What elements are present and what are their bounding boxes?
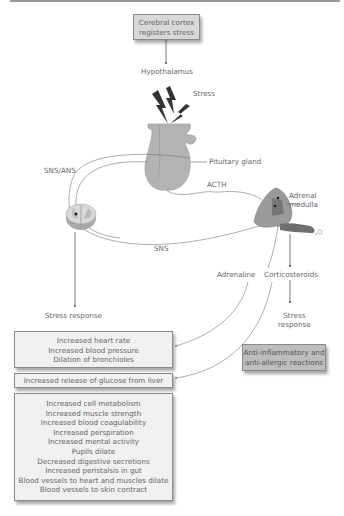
effect-line: Increased peristalsis in gut (15, 466, 172, 476)
stress-bolt-icon (152, 86, 190, 124)
effect-line: Increased mental activity (15, 437, 172, 447)
cerebral-cortex-box: Cerebral cortex registers stress (133, 14, 200, 40)
effect-line: Blood vessels to skin contract (15, 485, 172, 495)
spinal-cord-shape (66, 204, 96, 230)
label-stress-response-right: Stress response (278, 311, 311, 329)
cardio-line: Increased heart rate (15, 336, 172, 346)
label-sns-ans: SNS/ANS (44, 166, 76, 175)
anti-line: Anti-inflammatory and (243, 348, 325, 358)
glucose-release-box: Increased release of glucose from liver (14, 373, 173, 388)
effect-line: Increased muscle strength (15, 409, 172, 419)
label-pituitary-gland: Pituitary gland (209, 157, 261, 166)
cortex-line-2: registers stress (134, 28, 199, 38)
general-effects-box: Increased cell metabolism Increased musc… (14, 393, 173, 501)
effect-line: Increased cell metabolism (15, 399, 172, 409)
effect-line: Increased blood coagulability (15, 418, 172, 428)
cortex-line-1: Cerebral cortex (134, 18, 199, 28)
label-hypothalamus: Hypothalamus (141, 67, 193, 76)
glucose-line: Increased release of glucose from liver (15, 376, 172, 386)
anti-inflammatory-box: Anti-inflammatory and anti-allergic reac… (242, 344, 326, 371)
anti-line: anti-allergic reactions (243, 358, 325, 368)
label-sns: SNS (154, 244, 169, 253)
effect-line: Pupils dilate (15, 447, 172, 457)
adrenal-line-1: Adrenal (289, 191, 318, 200)
label-stress-response-left: Stress response (45, 311, 102, 320)
cardio-line: Dilation of bronchioles (15, 355, 172, 365)
adrenal-line-2: medulla (289, 200, 318, 209)
label-stress: Stress (193, 89, 215, 98)
effect-line: Blood vessels to heart and muscles dilat… (15, 476, 172, 486)
stress-response-line-2: response (278, 320, 311, 329)
stress-response-line-1: Stress (278, 311, 311, 320)
label-adrenal-medulla: Adrenal medulla (289, 191, 318, 209)
cardio-effects-box: Increased heart rate Increased blood pre… (14, 331, 173, 368)
effect-line: Decreased digestive secretions (15, 457, 172, 467)
pituitary-gland-shape (145, 124, 196, 190)
effect-line: Increased perspiration (15, 428, 172, 438)
label-adrenaline: Adrenaline (217, 270, 256, 279)
label-acth: ACTH (207, 180, 227, 189)
cardio-line: Increased blood pressure (15, 346, 172, 356)
label-corticosteroids: Corticosteroids (264, 270, 318, 279)
